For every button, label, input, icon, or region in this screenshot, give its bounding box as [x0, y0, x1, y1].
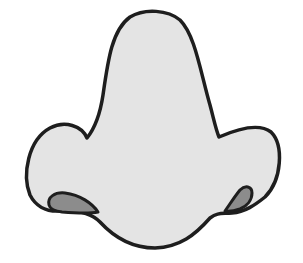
nose-illustration: [0, 0, 303, 263]
nose-drawing: [0, 0, 303, 263]
